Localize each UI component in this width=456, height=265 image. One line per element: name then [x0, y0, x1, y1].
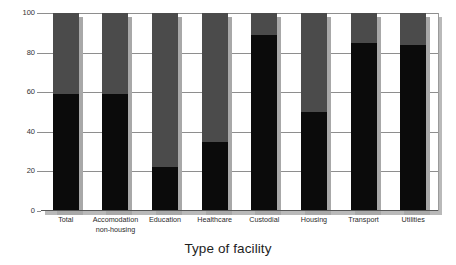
y-axis-tick-label: 20	[7, 167, 35, 175]
y-axis-tick-mark	[37, 92, 41, 93]
x-axis-tick-label: Transport	[339, 215, 389, 225]
x-axis-tick-label: Education	[140, 215, 190, 225]
x-axis-tick-label: Housing	[289, 215, 339, 225]
y-axis-tick-mark	[37, 13, 41, 14]
y-axis-tick-mark	[37, 171, 41, 172]
x-axis-tick-label: Healthcare	[190, 215, 240, 225]
x-axis-tick-label: Custodial	[240, 215, 290, 225]
y-axis-tick-mark	[37, 53, 41, 54]
x-axis-tick-label: Total	[41, 215, 91, 225]
x-axis-tick-label: Utilities	[388, 215, 438, 225]
y-axis-tick-label: 100	[7, 9, 35, 17]
y-axis-tick-label: 80	[7, 49, 35, 57]
y-axis-tick-mark	[37, 211, 41, 212]
y-axis-ticks: 020406080100	[41, 13, 438, 211]
x-axis-title: Type of facility	[0, 241, 456, 256]
bar-chart: 020406080100 TotalAccomodation non-housi…	[0, 0, 456, 265]
y-axis-tick-mark	[37, 132, 41, 133]
x-axis-tick-label: Accomodation non-housing	[91, 215, 141, 234]
y-axis-tick-label: 40	[7, 128, 35, 136]
y-axis-tick-label: 0	[7, 207, 35, 215]
y-axis-tick-label: 60	[7, 88, 35, 96]
